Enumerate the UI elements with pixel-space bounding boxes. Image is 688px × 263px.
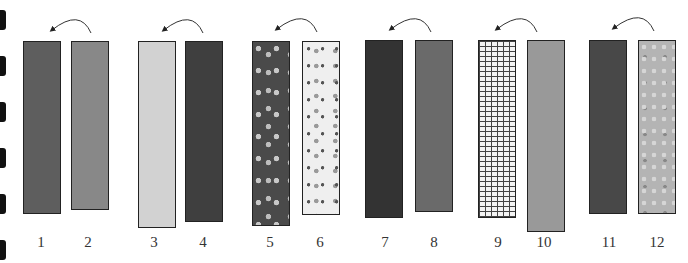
curved-arrow-icon (614, 18, 654, 31)
curved-arrow-icon (391, 19, 431, 32)
strip-4 (185, 41, 223, 222)
strip-5 (252, 41, 290, 226)
curved-arrow-icon (52, 20, 91, 33)
strip-8 (415, 40, 453, 212)
strip-label: 4 (183, 234, 223, 251)
curved-arrow-icon (164, 20, 203, 33)
strip-7 (365, 40, 403, 218)
strip-11 (589, 40, 627, 214)
curved-arrow-icon (497, 19, 537, 32)
strip-label: 9 (478, 234, 518, 251)
strip-2 (71, 41, 109, 210)
strip-label: 11 (589, 234, 629, 251)
strip-9 (478, 40, 516, 218)
strip-label: 1 (21, 234, 61, 251)
strip-10 (527, 40, 565, 232)
strip-label: 6 (300, 234, 340, 251)
strip-6 (302, 41, 340, 215)
strip-label: 3 (134, 234, 174, 251)
strip-3 (138, 41, 176, 228)
strip-label: 2 (68, 234, 108, 251)
strip-label: 8 (414, 234, 454, 251)
strip-label: 12 (637, 234, 677, 251)
strip-12 (638, 40, 676, 214)
strip-label: 7 (365, 234, 405, 251)
curved-arrow-icon (277, 19, 317, 32)
strip-label: 10 (524, 234, 564, 251)
strip-label: 5 (250, 234, 290, 251)
strip-1 (23, 41, 61, 214)
